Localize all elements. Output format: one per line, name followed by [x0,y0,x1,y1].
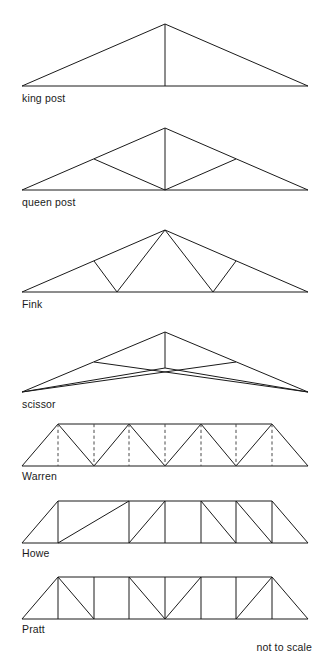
diagonal-3 [201,501,236,543]
right-end-diagonal [272,424,308,466]
right-end-diagonal [272,501,308,543]
left-lower-strut [94,261,117,292]
diagonal-2 [129,501,165,543]
warren-drawing [0,410,326,478]
truss-diagram-sheet: king post queen post Fink [0,0,326,669]
left-end-diagonal [22,577,58,619]
queen-post-drawing [0,112,326,198]
diagonal-2 [94,424,129,466]
left-rafter [22,24,165,86]
truss-label-warren: Warren [22,470,57,482]
left-diagonal [94,159,165,190]
right-rafter [165,230,308,292]
truss-label-scissor: scissor [22,398,56,410]
truss-figure-king-post: king post [0,6,326,94]
fink-drawing [0,214,326,300]
diagonal-5 [201,424,236,466]
diagonal-2 [129,577,165,619]
truss-label-howe: Howe [22,547,49,559]
left-rafter [22,332,165,392]
diagonal-1 [58,577,94,619]
truss-label-queen-post: queen post [22,196,75,208]
pratt-drawing [0,563,326,631]
diagonal-1 [58,501,129,543]
left-rafter [22,230,165,292]
truss-label-king-post: king post [22,92,65,104]
diagonal-3 [165,577,201,619]
diagonal-3 [129,424,165,466]
right-rafter [165,332,308,392]
truss-figure-fink: Fink [0,214,326,300]
diagonal-1 [58,424,94,466]
right-bottom-chord [165,368,308,392]
truss-label-fink: Fink [22,298,42,310]
diagonal-4 [236,577,272,619]
right-diagonal [165,159,236,190]
howe-drawing [0,487,326,555]
right-end-diagonal [272,577,308,619]
king-post-drawing [0,6,326,94]
diagonal-4 [165,424,201,466]
left-end-diagonal [22,424,58,466]
right-rafter [165,24,308,86]
right-lower-strut [213,261,236,292]
left-bottom-chord [22,368,165,392]
truss-label-pratt: Pratt [22,623,45,635]
left-end-diagonal [22,501,58,543]
truss-figure-queen-post: queen post [0,112,326,198]
scale-note: not to scale [257,641,313,653]
truss-figure-warren: Warren [0,410,326,478]
truss-figure-howe: Howe [0,487,326,555]
truss-figure-scissor: scissor [0,316,326,400]
left-apex-strut [117,230,165,292]
diagonal-4 [236,501,272,543]
right-apex-strut [165,230,213,292]
scissor-drawing [0,316,326,400]
diagonal-6 [236,424,272,466]
truss-figure-pratt: Pratt [0,563,326,631]
